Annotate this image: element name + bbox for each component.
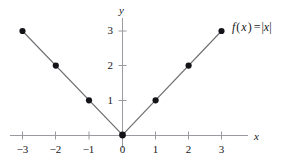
function-annotation: f(x)=|x|	[232, 21, 272, 33]
x-tick-label-3: 3	[207, 144, 236, 155]
y-tick-label-3: 3	[95, 25, 113, 36]
data-point	[53, 63, 59, 69]
data-point	[86, 97, 92, 103]
x-tick-label--3: −3	[8, 144, 37, 155]
abs-bar-close: |	[269, 20, 271, 34]
y-axis-label: y	[119, 5, 124, 16]
x-tick-label-1: 1	[141, 144, 170, 155]
data-point	[186, 63, 192, 69]
y-tick-label-1: 1	[95, 95, 113, 106]
data-point	[19, 28, 25, 34]
data-point	[218, 28, 224, 34]
x-tick-label-2: 2	[174, 144, 203, 155]
x-tick-label-0: 0	[108, 144, 137, 155]
data-point	[119, 132, 126, 139]
paren-close: )	[247, 20, 253, 34]
x-axis-label: x	[254, 131, 259, 142]
function-variable: x	[241, 20, 246, 34]
data-point	[153, 97, 159, 103]
x-tick-label--1: −1	[74, 144, 103, 155]
x-tick-label--2: −2	[41, 144, 70, 155]
y-tick-label-2: 2	[95, 60, 113, 71]
function-plot-figure: −3 −2 −1 0 1 2 3 1 2 3 x y f(x)=|x|	[0, 0, 288, 162]
